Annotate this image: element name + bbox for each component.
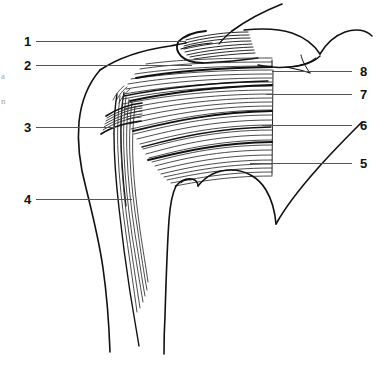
figure-label-6: 6 <box>360 119 367 132</box>
figure-label-7: 7 <box>360 88 367 101</box>
figure-label-5: 5 <box>360 157 367 170</box>
figure-label-3: 3 <box>24 121 31 134</box>
margin-text-fragment-2: n <box>1 97 6 106</box>
figure-label-2: 2 <box>24 59 31 72</box>
anatomy-figure: 1 2 3 4 5 6 7 8 a n <box>0 0 389 388</box>
figure-label-1: 1 <box>24 35 31 48</box>
figure-label-4: 4 <box>24 193 31 206</box>
leader-lines <box>0 0 389 388</box>
figure-label-8: 8 <box>360 65 367 78</box>
margin-text-fragment-1: a <box>1 72 5 81</box>
